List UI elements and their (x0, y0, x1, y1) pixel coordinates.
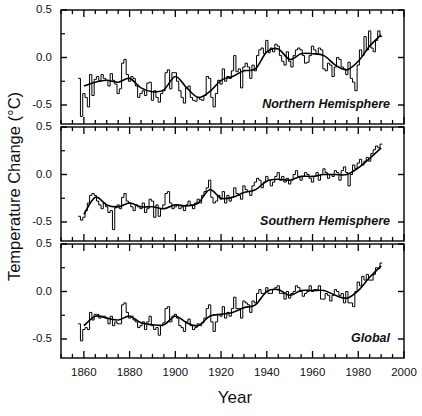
x-tick-label: 1920 (201, 366, 241, 378)
y-tick-label: 0.0 (12, 169, 52, 180)
panel-label: Southern Hemisphere (150, 214, 390, 228)
annual-series-line (78, 263, 382, 341)
y-tick-label: -0.5 (12, 333, 52, 344)
y-tick-label: 0.5 (12, 238, 52, 249)
smoothed-series-line (84, 148, 381, 215)
x-tick-label: 1900 (155, 366, 195, 378)
y-tick-label: 0.0 (12, 52, 52, 63)
x-tick-label: 1980 (338, 366, 378, 378)
y-tick-label: 0.5 (12, 4, 52, 15)
y-tick-label: -0.5 (12, 216, 52, 227)
x-tick-label: 1860 (64, 366, 104, 378)
smoothed-series-line (84, 266, 381, 326)
x-tick-label: 2000 (384, 366, 422, 378)
y-tick-label: -0.5 (12, 99, 52, 110)
x-tick-label: 1940 (247, 366, 287, 378)
y-tick-label: 0.0 (12, 286, 52, 297)
x-tick-label: 1960 (293, 366, 333, 378)
panel-label: Global (150, 331, 390, 345)
x-tick-label: 1880 (110, 366, 150, 378)
panel-label: Northern Hemisphere (150, 97, 390, 111)
smoothed-series-line (84, 35, 381, 98)
x-axis-title: Year (60, 388, 410, 408)
y-tick-label: 0.5 (12, 121, 52, 132)
